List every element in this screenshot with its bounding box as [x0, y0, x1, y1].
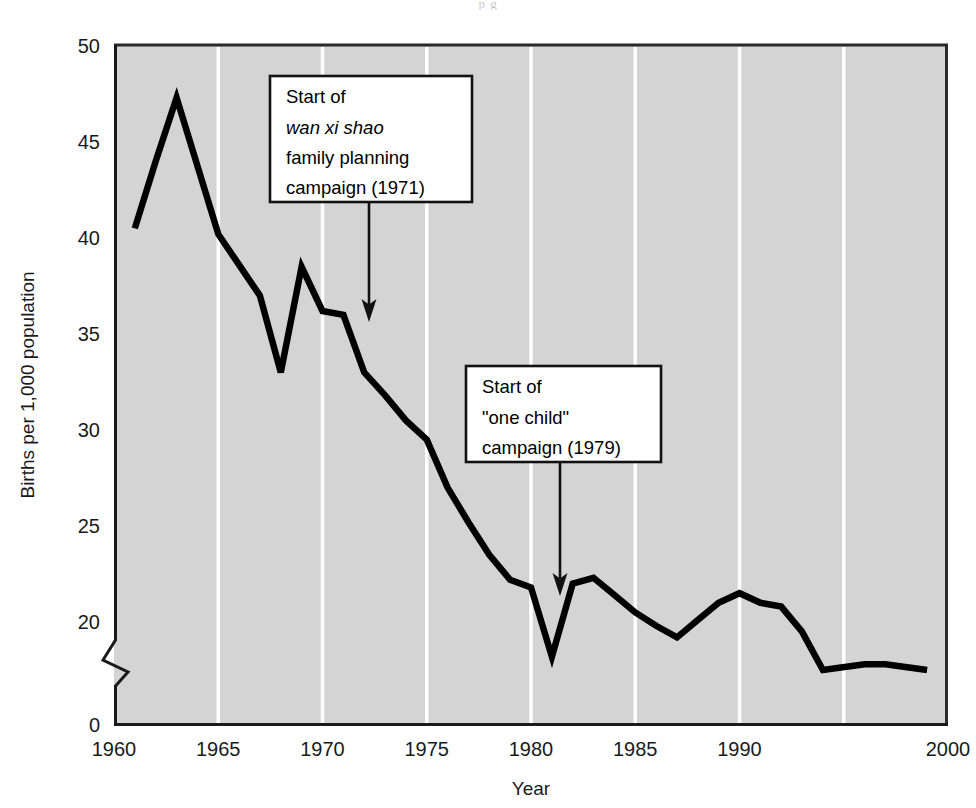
annotation-line-2: "one child" [482, 407, 569, 428]
x-tick-label-1960: 1960 [92, 738, 137, 760]
x-tick-label-1985: 1985 [613, 738, 658, 760]
x-axis-title: Year [512, 778, 551, 799]
annotation-line-4: campaign (1971) [286, 177, 425, 198]
x-tick-labels-group: 19601965197019751980198519902000 [92, 738, 971, 760]
x-tick-label-1975: 1975 [405, 738, 450, 760]
y-tick-label-0: 0 [89, 714, 100, 736]
page-bleed-text: p g [0, 0, 976, 10]
x-tick-label-2000: 2000 [926, 738, 971, 760]
y-tick-label-40: 40 [78, 227, 100, 249]
annotation-line-1: Start of [286, 86, 346, 107]
annotation-line-2: wan xi shao [286, 117, 384, 138]
y-tick-label-20: 20 [78, 611, 100, 633]
y-tick-label-50: 50 [78, 35, 100, 57]
chart-svg: 020253035404550 196019651970197519801985… [0, 0, 976, 808]
x-tick-label-1990: 1990 [717, 738, 762, 760]
y-axis-title: Births per 1,000 population [17, 271, 38, 498]
y-tick-label-30: 30 [78, 419, 100, 441]
annotation-line-1: Start of [482, 376, 542, 397]
y-tick-label-25: 25 [78, 515, 100, 537]
y-tick-labels-group: 020253035404550 [78, 35, 100, 736]
birth-rate-chart-figure: p g 020253035404550 19601965197019751980… [0, 0, 976, 808]
x-tick-label-1965: 1965 [196, 738, 241, 760]
x-tick-label-1980: 1980 [509, 738, 554, 760]
y-tick-label-45: 45 [78, 131, 100, 153]
x-tick-label-1970: 1970 [300, 738, 345, 760]
annotation-line-3: campaign (1979) [482, 437, 621, 458]
annotation-line-3: family planning [286, 147, 409, 168]
y-tick-label-35: 35 [78, 323, 100, 345]
